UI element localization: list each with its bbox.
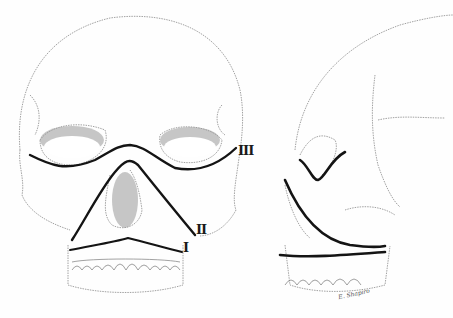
fracture-lines-lateral: [280, 152, 385, 256]
lateral-le-fort-III-line: [300, 152, 345, 180]
label-le-fort-III: III: [238, 143, 253, 158]
frontal-teeth: [72, 264, 180, 270]
lateral-skull: [285, 15, 453, 291]
label-le-fort-II: II: [196, 222, 206, 237]
label-le-fort-I: I: [183, 240, 188, 255]
lateral-le-fort-II-line: [285, 180, 385, 247]
skull-illustration: [0, 0, 453, 318]
le-fort-I-line: [70, 238, 182, 252]
lateral-teeth: [285, 279, 361, 285]
figure-canvas: I II III E. Shapiro: [0, 0, 453, 318]
lateral-le-fort-I-line: [280, 252, 385, 256]
